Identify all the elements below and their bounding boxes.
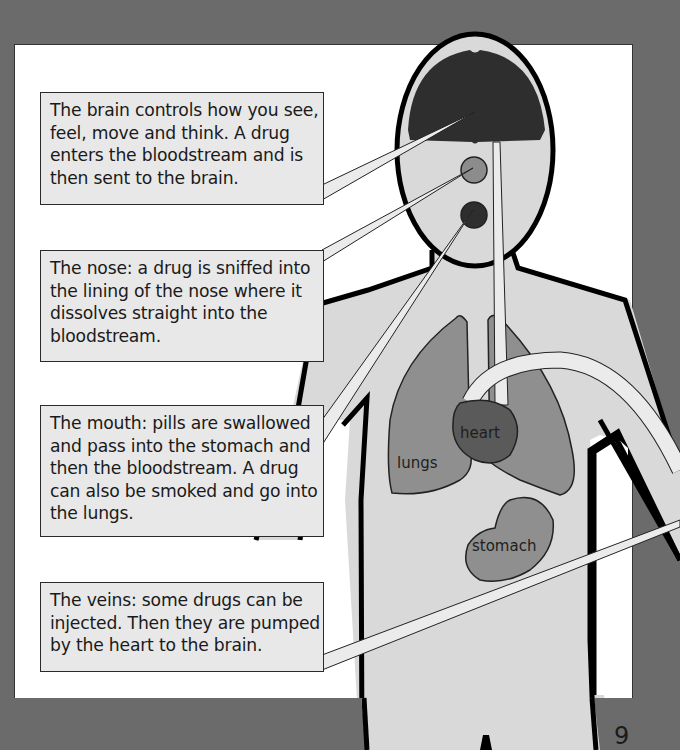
callout-nose: The nose: a drug is sniffed into the lin…: [40, 250, 324, 362]
stomach-label: stomach: [472, 537, 536, 555]
callout-brain: The brain controls how you see, feel, mo…: [40, 92, 324, 205]
heart-label: heart: [460, 424, 500, 442]
page-number: 9: [614, 722, 629, 750]
lungs-label: lungs: [397, 454, 438, 472]
callout-veins: The veins: some drugs can be injected. T…: [40, 582, 324, 672]
callout-mouth: The mouth: pills are swallowed and pass …: [40, 405, 324, 537]
mouth-circle: [461, 202, 487, 228]
nose-circle: [461, 157, 487, 183]
